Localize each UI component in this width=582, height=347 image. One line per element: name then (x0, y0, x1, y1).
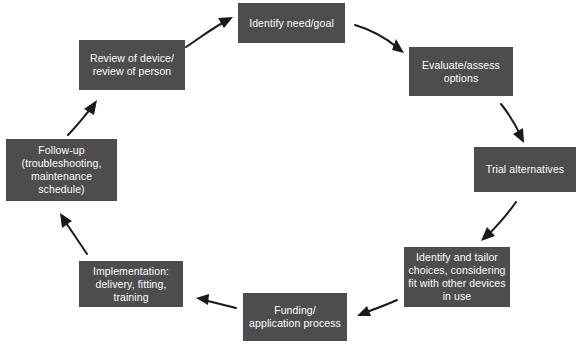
node-trial-alternatives[interactable]: Trial alternatives (474, 147, 576, 192)
arrow-tailor-to-funding (357, 300, 397, 316)
arrow-evaluate-to-trial (501, 104, 524, 143)
arrow-followup-to-review (68, 100, 97, 135)
arrow-identify-to-evaluate (355, 25, 404, 53)
node-evaluate-assess-options[interactable]: Evaluate/assess options (409, 47, 513, 96)
node-review-of-device-person[interactable]: Review of device/ review of person (79, 40, 185, 90)
arrow-implementation-to-followup (60, 213, 87, 254)
node-follow-up[interactable]: Follow-up (troubleshooting, maintenance … (6, 139, 117, 201)
cycle-diagram: Identify need/goal Evaluate/assess optio… (0, 0, 582, 347)
arrow-review-to-identify (186, 17, 233, 47)
node-identify-need-goal[interactable]: Identify need/goal (238, 3, 345, 43)
arrow-trial-to-tailor (481, 202, 516, 241)
arrow-funding-to-implementation (196, 294, 236, 308)
node-identify-and-tailor-choices[interactable]: Identify and tailor choices, considering… (404, 247, 510, 307)
node-funding-application-process[interactable]: Funding/ application process (243, 293, 347, 341)
node-implementation[interactable]: Implementation: delivery, fitting, train… (79, 261, 183, 307)
